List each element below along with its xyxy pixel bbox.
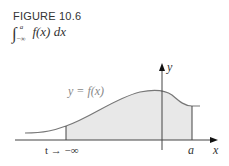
t-label: t → −∞ — [45, 144, 79, 156]
y-axis-arrow — [159, 63, 165, 71]
a-label: a — [188, 143, 194, 158]
plot-graphic — [0, 0, 229, 166]
curve-label: y = f(x) — [68, 84, 104, 99]
y-axis-label: y — [167, 60, 172, 75]
x-axis-label: x — [213, 143, 218, 158]
